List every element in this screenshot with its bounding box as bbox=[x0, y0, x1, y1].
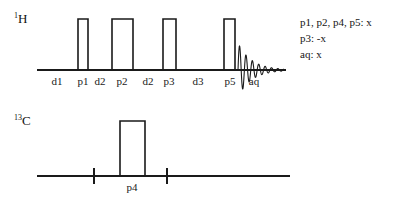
proton-label-d2-2: d2 bbox=[95, 76, 106, 87]
phase-cycling-annotation: p1, p2, p4, p5: x p3: -x aq: x bbox=[300, 14, 372, 62]
phase-line-pulses: p1, p2, p4, p5: x bbox=[300, 14, 372, 30]
proton-label-d1-0: d1 bbox=[52, 76, 63, 87]
proton-label-d3-6: d3 bbox=[193, 76, 204, 87]
fid-signal bbox=[238, 46, 284, 89]
proton-pulse-p5 bbox=[224, 19, 235, 70]
carbon-label-p4-0: p4 bbox=[127, 182, 138, 193]
fid-waveform bbox=[238, 46, 284, 89]
proton-label-aq-8: aq bbox=[249, 76, 259, 87]
phase-line-aq: aq: x bbox=[300, 46, 372, 62]
carbon-channel bbox=[37, 121, 290, 184]
proton-label-p3-5: p3 bbox=[164, 76, 175, 87]
phase-line-p3: p3: -x bbox=[300, 30, 372, 46]
proton-pulse-p3 bbox=[163, 19, 176, 70]
proton-label-p5-7: p5 bbox=[225, 76, 236, 87]
proton-pulse-p1 bbox=[78, 19, 88, 70]
proton-label-d2-4: d2 bbox=[143, 76, 154, 87]
proton-channel bbox=[37, 19, 286, 70]
pulse-sequence-figure: 1H 13C d1p1d2p2d2p3d3p5aq p4 p1, p2, p4,… bbox=[0, 0, 404, 208]
proton-pulse-p2 bbox=[112, 19, 133, 70]
carbon-pulse-p4 bbox=[120, 121, 145, 176]
proton-label-p1-1: p1 bbox=[78, 76, 89, 87]
proton-label-p2-3: p2 bbox=[117, 76, 128, 87]
